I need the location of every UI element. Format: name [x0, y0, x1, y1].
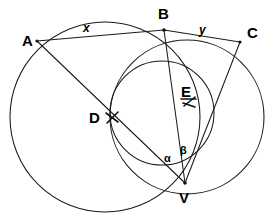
vertex-dot-b — [162, 28, 166, 32]
point-label-e: E — [181, 84, 191, 99]
angle-label-beta: β — [180, 145, 187, 156]
point-label-d: D — [89, 110, 100, 125]
point-label-v: V — [179, 190, 189, 205]
angle-label-alpha: α — [164, 153, 171, 164]
point-label-a: A — [22, 33, 33, 48]
segment-label-y: y — [199, 24, 206, 36]
point-label-b: B — [158, 6, 169, 21]
left-circle — [10, 22, 200, 212]
right-circle — [110, 40, 264, 194]
chord-CV — [185, 42, 240, 183]
vertex-dot-v — [183, 181, 187, 185]
geometry-diagram: A B C D E V x y α β — [0, 0, 274, 224]
chord-AV — [37, 41, 185, 183]
segment-label-x: x — [83, 22, 90, 34]
vertex-dot-a — [35, 39, 38, 42]
point-label-c: C — [247, 25, 258, 40]
vertex-dot-c — [238, 40, 241, 43]
geometry-canvas — [0, 0, 274, 224]
